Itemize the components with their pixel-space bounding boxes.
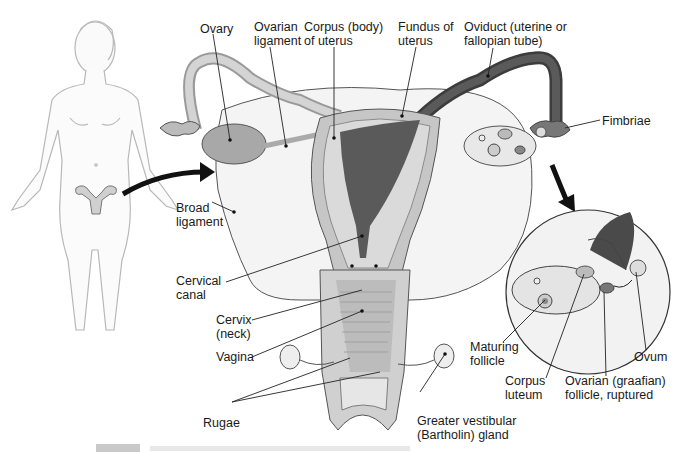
label-corpus-luteum-line2: luteum (505, 388, 543, 402)
label-cervical-canal-line1: Cervical (176, 274, 221, 288)
label-fundus-line2: uterus (398, 34, 433, 48)
body-figure (12, 21, 178, 330)
label-broad-ligament-line1: Broad (176, 201, 209, 215)
label-rugae: Rugae (203, 416, 240, 430)
label-corpus-line1: Corpus (body) (304, 20, 383, 34)
label-cervix-line1: Cervix (216, 313, 251, 327)
label-maturing-follicle-line2: follicle (470, 354, 505, 368)
label-broad-ligament-line2: ligament (176, 215, 223, 229)
label-bartholin-line2: (Bartholin) gland (417, 428, 509, 442)
right-fimbriae (530, 121, 570, 137)
figure-caption-tag (96, 444, 140, 452)
label-ovum: Ovum (634, 350, 667, 364)
label-ovarian-ligament-line1: Ovarian (254, 20, 298, 34)
left-ovary (202, 124, 266, 164)
label-graafian-line2: follicle, ruptured (565, 388, 653, 402)
label-cervix-line2: (neck) (216, 327, 251, 341)
label-ovary: Ovary (200, 22, 233, 36)
label-maturing-follicle-line1: Maturing (470, 340, 519, 354)
label-cervical-canal-line2: canal (176, 288, 206, 302)
label-ovarian-ligament-line2: ligament (254, 34, 301, 48)
figure-caption-text (150, 446, 410, 451)
label-graafian-line1: Ovarian (graafian) (565, 374, 666, 388)
label-oviduct-line1: Oviduct (uterine or (464, 20, 567, 34)
label-corpus-line2: of uterus (304, 34, 353, 48)
label-vagina: Vagina (216, 350, 254, 364)
label-bartholin-line1: Greater vestibular (417, 414, 516, 428)
label-fimbriae: Fimbriae (602, 114, 651, 128)
label-fundus-line1: Fundus of (398, 20, 454, 34)
left-fimbriae (160, 121, 200, 136)
label-oviduct-line2: fallopian tube) (464, 34, 543, 48)
label-corpus-luteum-line1: Corpus (505, 374, 545, 388)
